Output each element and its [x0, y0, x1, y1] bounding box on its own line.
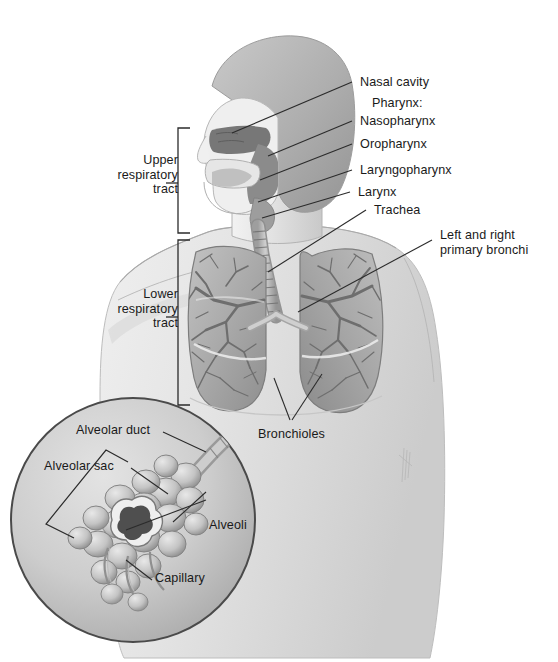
label-oropharynx: Oropharynx: [360, 137, 427, 152]
label-alveoli: Alveoli: [209, 518, 247, 533]
anatomy-illustration: [0, 0, 558, 662]
label-primary-bronchi: Left and right primary bronchi: [440, 228, 528, 257]
label-trachea: Trachea: [374, 203, 420, 218]
label-upper-respiratory-tract: Upper respiratory tract: [100, 153, 178, 197]
label-alveolar-sac: Alveolar sac: [44, 459, 114, 474]
head-sagittal-section: [197, 36, 354, 244]
label-alveolar-duct: Alveolar duct: [76, 423, 150, 438]
label-nasal-cavity: Nasal cavity: [360, 75, 429, 90]
label-nasopharynx: Nasopharynx: [360, 114, 435, 129]
label-lower-respiratory-tract: Lower respiratory tract: [100, 287, 178, 331]
label-capillary: Capillary: [155, 571, 205, 586]
label-bronchioles: Bronchioles: [258, 427, 325, 442]
label-pharynx: Pharynx:: [372, 96, 423, 111]
label-laryngopharynx: Laryngopharynx: [360, 163, 452, 178]
label-larynx: Larynx: [358, 185, 396, 200]
respiratory-system-figure: Upper respiratory tract Lower respirator…: [0, 0, 558, 662]
